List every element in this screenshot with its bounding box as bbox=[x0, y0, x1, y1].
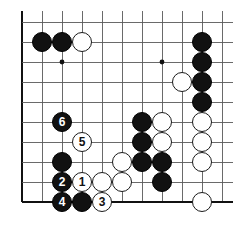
black-stone bbox=[52, 32, 72, 52]
numbered-stone-2: 2 bbox=[52, 172, 72, 192]
black-stone bbox=[32, 32, 52, 52]
white-stone bbox=[152, 112, 172, 132]
star-point bbox=[60, 60, 65, 65]
white-stone bbox=[112, 172, 132, 192]
move-number-label: 1 bbox=[79, 176, 85, 188]
white-stone bbox=[192, 152, 212, 172]
black-stone bbox=[72, 192, 92, 212]
white-stone bbox=[92, 172, 112, 192]
numbered-stone-4: 4 bbox=[52, 192, 72, 212]
move-number-label: 6 bbox=[59, 116, 65, 128]
black-stone bbox=[132, 112, 152, 132]
black-stone bbox=[192, 52, 212, 72]
numbered-stone-3: 3 bbox=[92, 192, 112, 212]
black-stone bbox=[152, 152, 172, 172]
white-stone bbox=[192, 132, 212, 152]
black-stone bbox=[132, 132, 152, 152]
black-stone bbox=[192, 92, 212, 112]
numbered-stone-5: 5 bbox=[72, 132, 92, 152]
black-stone bbox=[52, 152, 72, 172]
black-stone bbox=[132, 152, 152, 172]
white-stone bbox=[192, 192, 212, 212]
black-stone bbox=[152, 172, 172, 192]
move-number-label: 2 bbox=[59, 176, 65, 188]
white-stone bbox=[72, 32, 92, 52]
numbered-stone-6: 6 bbox=[52, 112, 72, 132]
white-stone bbox=[152, 132, 172, 152]
white-stone bbox=[112, 152, 132, 172]
white-stone bbox=[192, 112, 212, 132]
move-number-label: 4 bbox=[59, 196, 65, 208]
numbered-stone-1: 1 bbox=[72, 172, 92, 192]
move-number-label: 5 bbox=[79, 136, 85, 148]
go-board-diagram: 652143 bbox=[0, 0, 235, 229]
black-stone bbox=[192, 32, 212, 52]
black-stone bbox=[192, 72, 212, 92]
move-number-label: 3 bbox=[99, 196, 105, 208]
star-point bbox=[160, 60, 165, 65]
white-stone bbox=[172, 72, 192, 92]
